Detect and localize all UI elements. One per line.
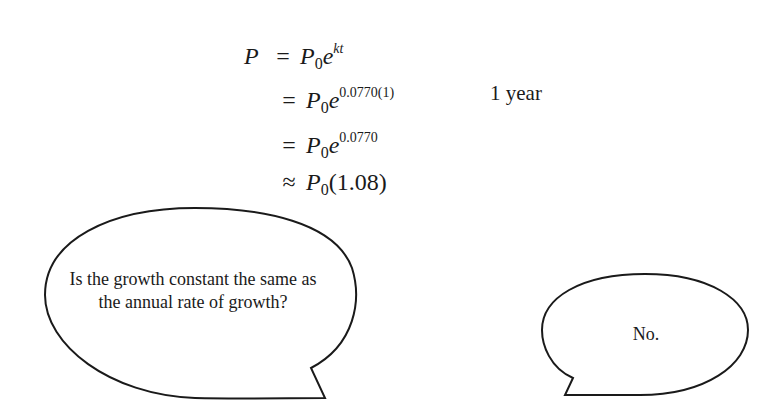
speech-bubbles-graphic [0,0,779,416]
question-bubble-text: Is the growth constant the same as the a… [68,268,318,314]
answer-bubble-text: No. [600,323,692,346]
